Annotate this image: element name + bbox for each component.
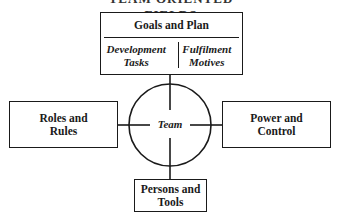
team-label: Team [150, 118, 190, 130]
power-and-control-box: Power andControl [222, 101, 331, 148]
goals-and-plan-header: Goals and Plan [101, 13, 242, 37]
header-divider [104, 37, 239, 38]
fulfilment-motives-label: FulfilmentMotives [172, 40, 243, 72]
roles-and-rules-box: Roles andRules [9, 101, 118, 148]
development-tasks-label: DevelopmentTasks [101, 40, 172, 72]
goals-and-plan-box: Goals and Plan DevelopmentTasks Fulfilme… [100, 12, 243, 75]
persons-and-tools-box: Persons andTools [134, 179, 207, 212]
column-divider [178, 42, 179, 68]
